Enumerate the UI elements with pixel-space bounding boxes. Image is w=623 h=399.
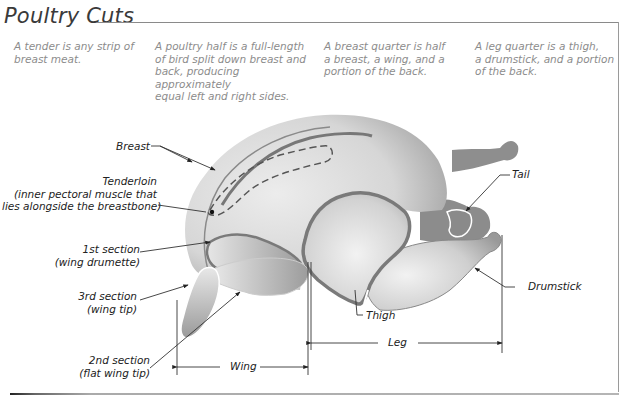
label-line: lies alongside the breastbone) (2, 200, 157, 213)
label-line: (wing tip) (40, 303, 137, 316)
tenderloin-dot (210, 210, 214, 214)
label-line: 3rd section (40, 290, 137, 303)
label-breast: Breast (98, 140, 150, 153)
label-line: Tenderloin (2, 175, 157, 188)
label-third-section: 3rd section (wing tip) (40, 290, 137, 315)
label-second-section: 2nd section (flat wing tip) (40, 354, 150, 379)
label-drumstick: Drumstick (528, 280, 582, 293)
label-line: (inner pectoral muscle that (2, 188, 157, 201)
label-first-section: 1st section (wing drumette) (40, 243, 140, 268)
wing-tip-shape (181, 268, 219, 339)
label-leg-span: Leg (388, 336, 407, 349)
label-tenderloin: Tenderloin (inner pectoral muscle that l… (2, 175, 157, 213)
wing-flat-shape (215, 258, 308, 295)
label-thigh: Thigh (366, 309, 395, 322)
label-line: 1st section (40, 243, 140, 256)
label-line: (wing drumette) (40, 256, 140, 269)
label-line: (flat wing tip) (40, 367, 150, 380)
label-line: 2nd section (40, 354, 150, 367)
back-wing-tip-shape (452, 141, 518, 172)
label-wing-span: Wing (230, 360, 257, 373)
label-tail: Tail (512, 168, 530, 181)
